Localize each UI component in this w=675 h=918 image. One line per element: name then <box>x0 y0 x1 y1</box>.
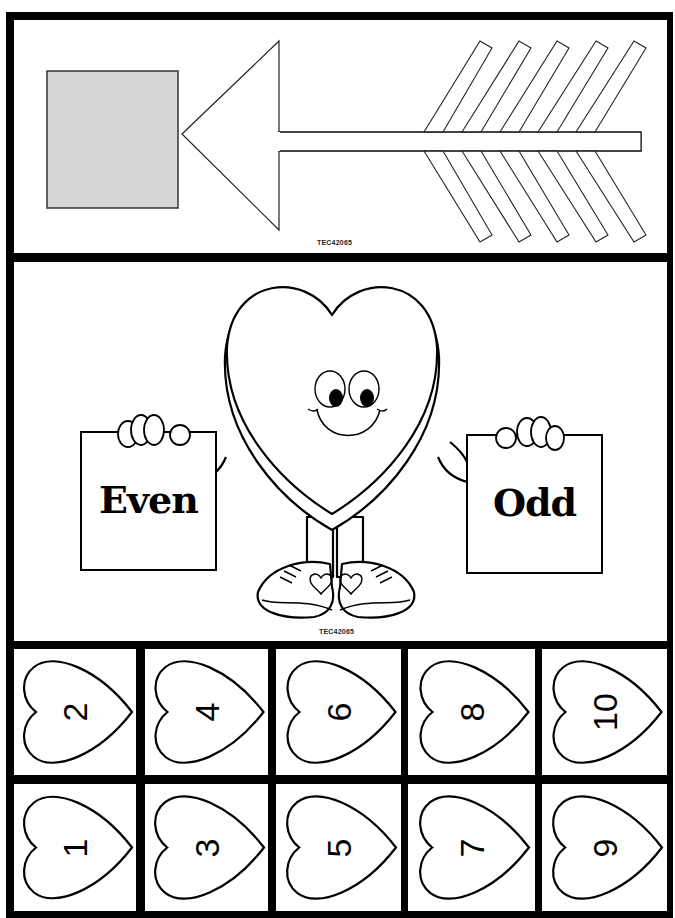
number-label: 10 <box>588 693 622 731</box>
odd-label: Odd <box>467 480 602 525</box>
number-label: 9 <box>588 838 622 857</box>
number-label: 1 <box>58 838 92 857</box>
number-label: 6 <box>322 703 356 722</box>
heart-mascot-illustration <box>14 262 667 641</box>
number-card-2[interactable]: 2 <box>14 649 136 775</box>
even-label: Even <box>81 477 216 522</box>
number-label: 7 <box>455 838 489 857</box>
number-card-5[interactable]: 5 <box>276 784 401 911</box>
product-code: TEC42065 <box>317 239 352 246</box>
arrow-card: TEC42065 <box>14 20 667 253</box>
mascot-card: Even Odd TEC42065 <box>14 262 667 641</box>
number-card-4[interactable]: 4 <box>145 649 268 775</box>
arrow-icon <box>14 20 667 253</box>
number-card-8[interactable]: 8 <box>408 649 535 775</box>
number-card-3[interactable]: 3 <box>145 784 268 911</box>
number-card-9[interactable]: 9 <box>542 784 667 911</box>
number-label: 5 <box>322 838 356 857</box>
number-label: 8 <box>455 703 489 722</box>
worksheet-page: TEC42065 <box>6 12 673 918</box>
number-card-10[interactable]: 10 <box>542 649 667 775</box>
number-card-1[interactable]: 1 <box>14 784 136 911</box>
number-label: 3 <box>190 838 224 857</box>
number-label: 2 <box>58 703 92 722</box>
product-code: TEC42065 <box>319 628 354 635</box>
number-card-7[interactable]: 7 <box>408 784 535 911</box>
number-card-6[interactable]: 6 <box>276 649 401 775</box>
number-label: 4 <box>190 703 224 722</box>
